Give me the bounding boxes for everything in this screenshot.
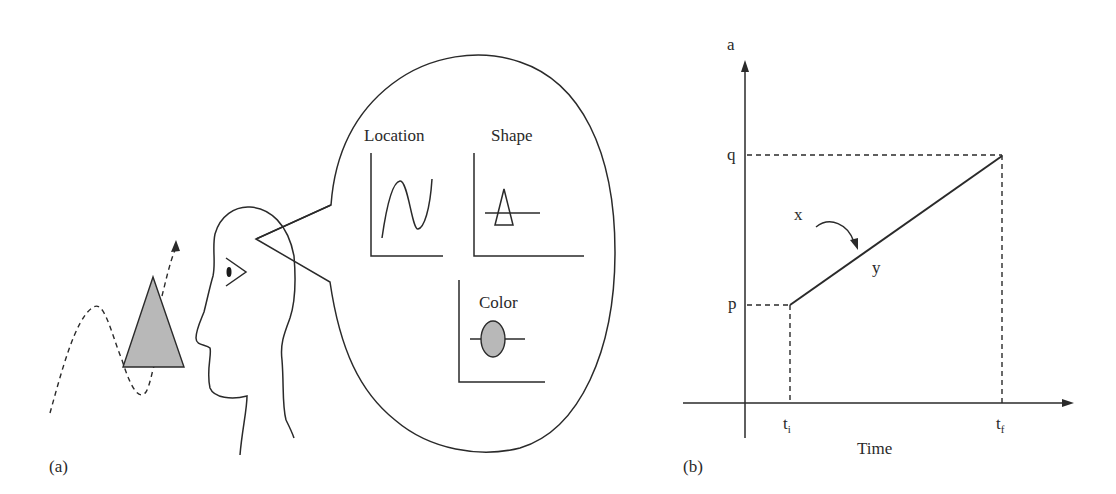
neck-line xyxy=(286,420,294,438)
curved-arrow-icon xyxy=(816,222,854,242)
y-axis-arrowhead-icon xyxy=(741,60,749,72)
x-tick-tf: tf xyxy=(996,414,1005,435)
x-tick-ti-sub: i xyxy=(788,423,791,435)
panel-a-label: (a) xyxy=(49,457,68,476)
annotation-y: y xyxy=(872,258,881,277)
x-tick-ti: ti xyxy=(783,414,791,435)
shape-label: Shape xyxy=(491,126,533,145)
panel-b-label: (b) xyxy=(683,457,703,476)
x-axis-label: Time xyxy=(857,439,892,458)
shape-triangle xyxy=(495,189,513,225)
location-curve xyxy=(382,179,432,238)
stimulus-triangle xyxy=(123,277,184,367)
panel-a: Location Shape Color (a) xyxy=(49,55,615,476)
y-tick-q: q xyxy=(727,145,736,164)
annotation-x: x xyxy=(794,205,803,224)
arrowhead-icon xyxy=(171,240,180,252)
color-label: Color xyxy=(479,293,518,312)
panel-b: a Time q p ti tf x y (b) xyxy=(683,35,1074,476)
y-axis-label: a xyxy=(727,35,735,54)
pupil xyxy=(227,267,232,277)
color-ellipse xyxy=(481,321,505,357)
figure-canvas: Location Shape Color (a) a Time q p ti xyxy=(0,0,1116,494)
x-axis-arrowhead-icon xyxy=(1062,399,1074,407)
x-tick-tf-sub: f xyxy=(1001,423,1005,435)
location-label: Location xyxy=(364,126,425,145)
curved-arrowhead-icon xyxy=(850,238,858,250)
data-line xyxy=(790,156,1002,305)
location-axes xyxy=(371,153,443,256)
thought-bubble xyxy=(256,55,615,452)
y-tick-p: p xyxy=(728,294,737,313)
shape-axes xyxy=(474,153,584,256)
bubble-pointer xyxy=(256,205,331,239)
dashed-motion-path-upper xyxy=(162,250,175,296)
head-outline xyxy=(196,207,295,455)
